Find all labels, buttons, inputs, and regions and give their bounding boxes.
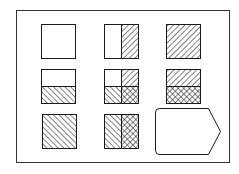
cell-r3c1 (43, 115, 77, 149)
cell-region-back-diagonal-hatch (105, 87, 122, 104)
cell-r2c3 (167, 70, 201, 104)
cell-region-forward-diagonal-hatch (122, 70, 139, 87)
cell-region-forward-diagonal-hatch (167, 70, 201, 87)
cell-region-blank (42, 70, 76, 87)
cell-r1c3 (167, 25, 201, 59)
cell-region-cross-hatch (167, 87, 201, 104)
cell-region-back-diagonal-hatch (105, 115, 122, 149)
cell-region-blank (105, 25, 122, 59)
cell-region-blank (105, 70, 122, 87)
cell-r2c1 (42, 70, 76, 104)
cell-region-blank (42, 25, 76, 59)
cell-r1c1 (42, 25, 76, 59)
cell-region-forward-diagonal-hatch (122, 25, 139, 59)
cell-region-back-diagonal-hatch (42, 87, 76, 104)
cell-region-back-diagonal-hatch (43, 115, 77, 149)
puzzle-figure: Pattern matrix puzzle (0, 0, 239, 174)
cell-r2c2 (105, 70, 139, 104)
cell-region-cross-hatch (122, 87, 139, 104)
cell-region-forward-diagonal-hatch (167, 25, 201, 59)
cell-r3c2 (105, 115, 139, 149)
answer-slot[interactable] (156, 109, 221, 155)
puzzle-canvas (0, 0, 239, 174)
cell-region-cross-hatch (122, 115, 139, 149)
cell-r1c2 (105, 25, 139, 59)
